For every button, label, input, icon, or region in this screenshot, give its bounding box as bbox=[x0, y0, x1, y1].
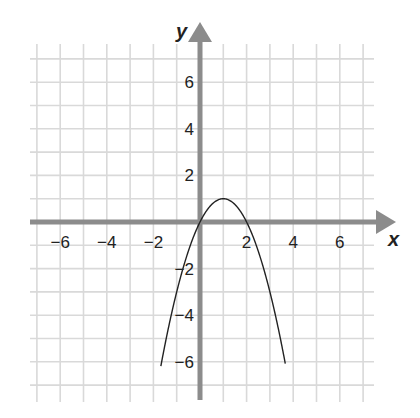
coordinate-plane: −6−4−2246642−2−4−6 x y bbox=[0, 0, 420, 418]
x-axis-label: x bbox=[387, 228, 400, 250]
y-axis-label: y bbox=[175, 20, 188, 42]
x-tick-label: 6 bbox=[335, 233, 344, 252]
x-tick-label: 4 bbox=[288, 233, 297, 252]
y-tick-label: −6 bbox=[175, 353, 194, 372]
x-tick-label: −6 bbox=[51, 233, 70, 252]
y-axis-arrow-icon bbox=[188, 22, 212, 42]
y-tick-label: 4 bbox=[185, 120, 194, 139]
y-tick-label: 2 bbox=[185, 166, 194, 185]
y-tick-label: 6 bbox=[185, 73, 194, 92]
y-tick-label: −4 bbox=[175, 306, 194, 325]
x-tick-label: −2 bbox=[144, 233, 163, 252]
x-tick-label: −4 bbox=[97, 233, 116, 252]
x-tick-label: 2 bbox=[242, 233, 251, 252]
axes bbox=[30, 22, 396, 400]
